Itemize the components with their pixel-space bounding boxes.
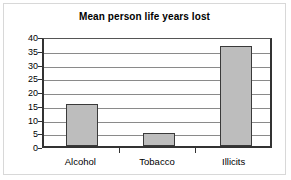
y-axis-tick-label: 10: [16, 117, 38, 126]
y-axis-tick-label: 40: [16, 34, 38, 43]
x-axis-category-label: Alcohol: [42, 156, 119, 167]
x-axis-tick-mark: [119, 148, 120, 153]
y-axis-tick-label: 20: [16, 89, 38, 98]
y-axis-tick-label: 0: [16, 144, 38, 153]
y-axis-tick-label: 35: [16, 48, 38, 57]
y-axis-tick-labels: 0510152025303540: [10, 0, 38, 180]
bar: [220, 46, 252, 146]
y-axis-tick-label: 25: [16, 75, 38, 84]
bar: [66, 104, 98, 146]
y-axis-tick-label: 30: [16, 62, 38, 71]
y-axis-tick-mark: [38, 148, 42, 149]
y-axis-tick-label: 15: [16, 103, 38, 112]
plot-area: [42, 38, 272, 148]
bar: [143, 133, 175, 146]
x-axis-category-label: Illicits: [195, 156, 272, 167]
x-axis-category-label: Tobacco: [119, 156, 196, 167]
x-axis-tick-mark: [195, 148, 196, 153]
chart-title: Mean person life years lost: [4, 11, 285, 22]
y-axis-tick-label: 5: [16, 130, 38, 139]
